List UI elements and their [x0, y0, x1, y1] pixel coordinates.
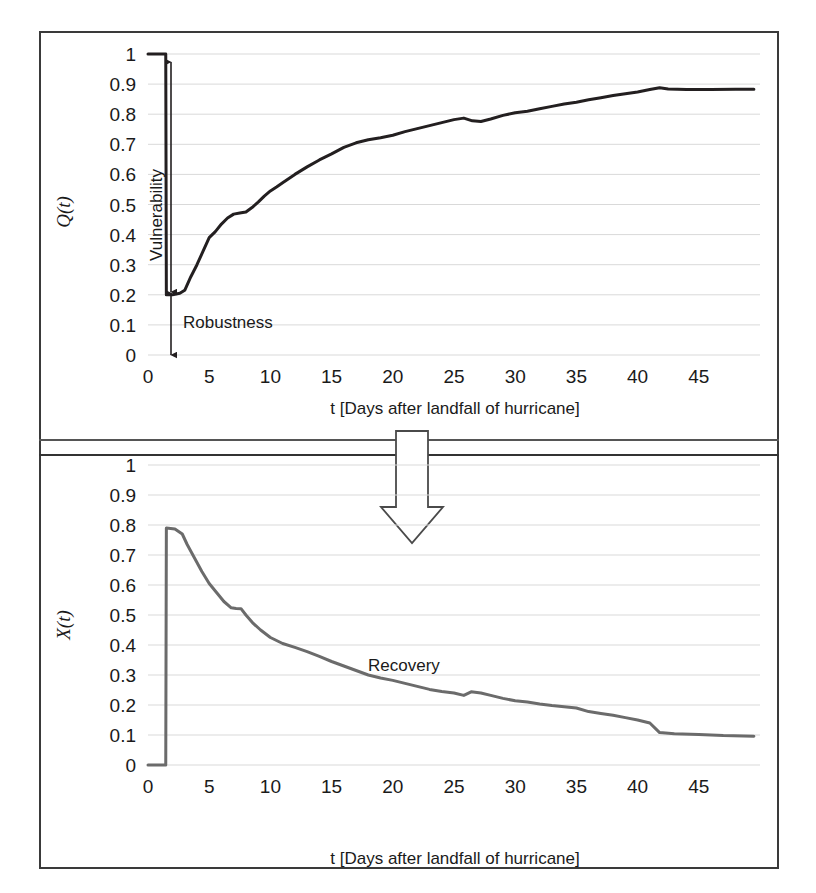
data-line-xt: [148, 528, 754, 765]
x-tick-label: 40: [627, 776, 648, 797]
y-tick-label: 0.8: [110, 515, 136, 536]
y-axis-ticklabels-top: 00.10.20.30.40.50.60.70.80.91: [110, 44, 137, 366]
x-tick-label: 30: [505, 366, 526, 387]
robustness-label: Robustness: [183, 313, 273, 332]
x-tick-label: 20: [382, 366, 403, 387]
y-tick-label: 0.4: [110, 225, 137, 246]
panel-quality-recovery: 00.10.20.30.40.50.60.70.80.91 0510152025…: [0, 0, 816, 440]
y-tick-label: 0.5: [110, 605, 136, 626]
x-tick-label: 45: [688, 366, 709, 387]
x-tick-label: 25: [443, 776, 464, 797]
x-axis-ticklabels-bottom: 051015202530354045: [143, 776, 710, 797]
y-tick-label: 1: [125, 44, 136, 65]
y-tick-label: 0.6: [110, 575, 136, 596]
y-tick-label: 1: [125, 455, 136, 476]
y-axis-label-qt: Q(t): [53, 196, 75, 228]
y-tick-label: 0.3: [110, 255, 136, 276]
y-tick-label: 0.8: [110, 104, 136, 125]
x-tick-label: 0: [143, 776, 154, 797]
x-tick-label: 35: [566, 776, 587, 797]
x-tick-label: 5: [204, 776, 215, 797]
x-tick-label: 25: [443, 366, 464, 387]
x-tick-label: 20: [382, 776, 403, 797]
y-tick-label: 0: [125, 345, 136, 366]
y-tick-label: 0.6: [110, 164, 136, 185]
x-tick-label: 35: [566, 366, 587, 387]
y-tick-label: 0.9: [110, 74, 136, 95]
gridlines-top: [148, 54, 760, 355]
x-axis-label-bottom: t [Days after landfall of hurricane]: [330, 849, 579, 868]
x-tick-label: 0: [143, 366, 154, 387]
x-axis-ticklabels-top: 051015202530354045: [143, 366, 710, 387]
y-tick-label: 0.1: [110, 725, 136, 746]
y-axis-label-xt: X(t): [53, 610, 75, 641]
x-tick-label: 10: [260, 776, 281, 797]
y-tick-label: 0.3: [110, 665, 136, 686]
y-tick-label: 0.2: [110, 695, 136, 716]
x-tick-label: 5: [204, 366, 215, 387]
robustness-annotation: Robustness: [171, 293, 273, 355]
panel-loss-decay: 00.10.20.30.40.50.60.70.80.91 0510152025…: [0, 440, 816, 893]
x-tick-label: 10: [260, 366, 281, 387]
x-tick-label: 15: [321, 776, 342, 797]
x-tick-label: 15: [321, 366, 342, 387]
y-tick-label: 0.2: [110, 285, 136, 306]
y-axis-ticklabels-bottom: 00.10.20.30.40.50.60.70.80.91: [110, 455, 137, 776]
y-tick-label: 0: [125, 755, 136, 776]
figure-root: 00.10.20.30.40.50.60.70.80.91 0510152025…: [0, 0, 816, 893]
x-tick-label: 30: [505, 776, 526, 797]
x-tick-label: 45: [688, 776, 709, 797]
y-tick-label: 0.9: [110, 485, 136, 506]
y-tick-label: 0.1: [110, 315, 136, 336]
gridlines-bottom: [148, 465, 760, 765]
recovery-label: Recovery: [368, 656, 440, 675]
vulnerability-label: Vulnerability: [147, 169, 166, 261]
y-tick-label: 0.4: [110, 635, 137, 656]
chart-loss-decay: 00.10.20.30.40.50.60.70.80.91 0510152025…: [0, 440, 816, 893]
x-axis-label-top: t [Days after landfall of hurricane]: [330, 399, 579, 418]
y-tick-label: 0.5: [110, 195, 136, 216]
x-tick-label: 40: [627, 366, 648, 387]
y-tick-label: 0.7: [110, 134, 136, 155]
y-tick-label: 0.7: [110, 545, 136, 566]
chart-quality-recovery: 00.10.20.30.40.50.60.70.80.91 0510152025…: [0, 0, 816, 440]
